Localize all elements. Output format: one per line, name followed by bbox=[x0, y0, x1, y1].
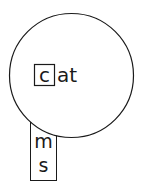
word-slider-diagram: m s c at bbox=[0, 0, 155, 191]
onset-letter: c bbox=[39, 63, 50, 87]
rime-text: at bbox=[57, 63, 77, 87]
strip-letter: s bbox=[39, 154, 49, 176]
